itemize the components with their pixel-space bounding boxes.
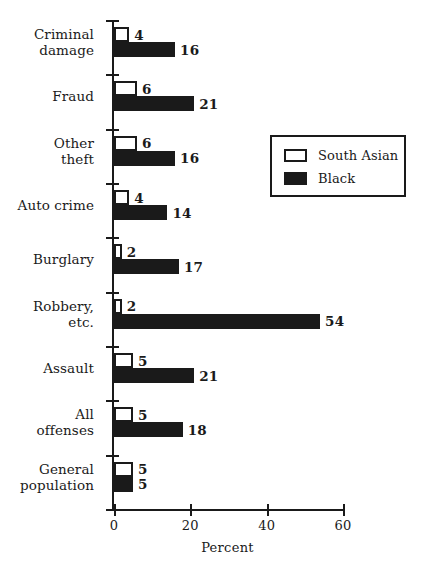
bar-south-asian (114, 299, 122, 314)
bar-group: Robbery,etc.254 (0, 292, 432, 346)
legend-swatch-south-asian (284, 149, 307, 162)
bar-group: Alloffenses518 (0, 400, 432, 454)
bar-group: Fraud621 (0, 74, 432, 128)
bar-value-label: 5 (138, 407, 148, 423)
bar-row: 2 (114, 244, 403, 259)
bar-row: 5 (114, 353, 403, 368)
category-label: Auto crime (0, 197, 94, 213)
bar-value-label: 21 (199, 368, 218, 384)
bar-value-label: 2 (127, 298, 137, 314)
legend-label: Black (318, 171, 355, 186)
bar-south-asian (114, 462, 133, 477)
bar-row: 5 (114, 407, 403, 422)
bar-south-asian (114, 407, 133, 422)
bar-black (114, 422, 183, 437)
category-label: Othertheft (0, 135, 94, 167)
bar-value-label: 2 (127, 244, 137, 260)
bar-south-asian (114, 81, 137, 96)
bar-black (114, 205, 167, 220)
category-label-line: Assault (0, 360, 94, 376)
legend-entry: Black (284, 170, 355, 186)
bar-row: 2 (114, 299, 403, 314)
bar-value-label: 16 (180, 42, 199, 58)
category-label: Fraud (0, 88, 94, 104)
category-label-line: theft (0, 151, 94, 167)
bar-group: Criminaldamage416 (0, 20, 432, 74)
bar-row: 21 (114, 368, 403, 383)
bar-value-label: 6 (142, 81, 152, 97)
bar-south-asian (114, 27, 129, 42)
bar-group: Generalpopulation55 (0, 455, 432, 509)
category-label: Generalpopulation (0, 461, 94, 493)
bar-south-asian (114, 136, 137, 151)
bar-black (114, 96, 194, 111)
bar-row: 5 (114, 462, 403, 477)
category-label-line: Burglary (0, 251, 94, 267)
bar-south-asian (114, 244, 122, 259)
legend: South AsianBlack (270, 135, 406, 197)
x-axis-tick-label: 40 (247, 518, 287, 533)
category-label: Alloffenses (0, 406, 94, 438)
category-label-line: Other (0, 135, 94, 151)
plot-area: 0204060 Percent Criminaldamage416Fraud62… (0, 0, 432, 569)
bar-black (114, 42, 175, 57)
category-label-line: etc. (0, 314, 94, 330)
category-label: Assault (0, 360, 94, 376)
category-label: Robbery,etc. (0, 298, 94, 330)
category-label: Criminaldamage (0, 26, 94, 58)
bar-value-label: 5 (138, 476, 148, 492)
bar-row: 14 (114, 205, 403, 220)
x-axis-tick-label: 60 (323, 518, 363, 533)
bar-black (114, 314, 320, 329)
bar-row: 16 (114, 42, 403, 57)
bar-value-label: 5 (138, 353, 148, 369)
x-axis-line (112, 509, 343, 511)
bar-value-label: 21 (199, 96, 218, 112)
category-label-line: Auto crime (0, 197, 94, 213)
bar-value-label: 4 (134, 190, 144, 206)
bar-black (114, 477, 133, 492)
bar-south-asian (114, 190, 129, 205)
x-axis-title: Percent (112, 540, 343, 555)
legend-swatch-black (284, 172, 307, 185)
bar-chart: 0204060 Percent Criminaldamage416Fraud62… (0, 0, 432, 569)
category-label-line: offenses (0, 422, 94, 438)
bar-value-label: 6 (142, 135, 152, 151)
bar-black (114, 151, 175, 166)
bar-south-asian (114, 353, 133, 368)
bar-value-label: 4 (134, 27, 144, 43)
bar-row: 18 (114, 422, 403, 437)
bar-value-label: 16 (180, 150, 199, 166)
x-axis-tick-label: 0 (94, 518, 134, 533)
bar-group: Assault521 (0, 346, 432, 400)
category-label-line: General (0, 461, 94, 477)
bar-row: 6 (114, 81, 403, 96)
bar-row: 5 (114, 477, 403, 492)
bar-value-label: 18 (188, 422, 207, 438)
bar-group: Burglary217 (0, 237, 432, 291)
bar-row: 17 (114, 259, 403, 274)
x-axis-tick-label: 20 (170, 518, 210, 533)
bar-black (114, 368, 194, 383)
category-label-line: damage (0, 42, 94, 58)
category-label-line: Robbery, (0, 298, 94, 314)
y-axis-tick (106, 509, 119, 511)
bar-value-label: 5 (138, 461, 148, 477)
category-label-line: population (0, 477, 94, 493)
bar-row: 54 (114, 314, 403, 329)
bar-row: 21 (114, 96, 403, 111)
category-label: Burglary (0, 251, 94, 267)
bar-value-label: 14 (172, 205, 191, 221)
category-label-line: Criminal (0, 26, 94, 42)
bar-row: 4 (114, 27, 403, 42)
bar-value-label: 17 (184, 259, 203, 275)
legend-label: South Asian (318, 148, 398, 163)
legend-entry: South Asian (284, 147, 398, 163)
bar-value-label: 54 (325, 313, 344, 329)
category-label-line: Fraud (0, 88, 94, 104)
category-label-line: All (0, 406, 94, 422)
bar-black (114, 259, 179, 274)
